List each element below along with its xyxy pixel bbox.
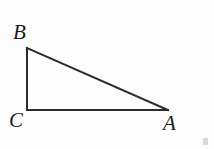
- vertex-label-b: B: [13, 22, 26, 43]
- edge-ab-hypotenuse: [27, 48, 168, 110]
- vertex-label-a: A: [163, 113, 176, 134]
- triangle-drawing: [0, 0, 214, 149]
- corner-smudge-artifact: [203, 138, 208, 145]
- figure-canvas: B C A: [0, 0, 214, 149]
- vertex-label-c: C: [9, 110, 23, 131]
